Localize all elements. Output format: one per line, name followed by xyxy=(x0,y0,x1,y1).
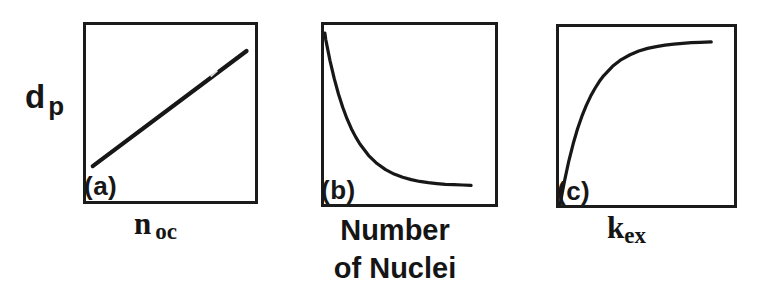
three-panel-qualitative-figure: dp (a) noc (b) Number of Nuclei (c) kex xyxy=(0,0,767,293)
panel-a-tag: (a) xyxy=(84,173,117,199)
panel-c-x-label-base: k xyxy=(607,210,624,245)
y-axis-label-base: d xyxy=(25,78,45,115)
panel-b-x-label-line2: of Nuclei xyxy=(330,249,460,287)
panel-a-plot-box: (a) xyxy=(83,22,258,204)
y-axis-label-dp: dp xyxy=(25,80,64,116)
panel-c-plot-box: (c) xyxy=(556,24,737,208)
panel-c-tag: (c) xyxy=(557,178,590,204)
panel-b-plot-box: (b) xyxy=(321,22,498,207)
y-axis-label-subscript: p xyxy=(48,91,64,121)
panel-c-x-axis-label: kex xyxy=(607,212,646,246)
panel-c-x-label-subscript: ex xyxy=(624,223,646,248)
panel-b-x-label-line1: Number xyxy=(330,211,460,249)
panel-b-x-axis-label: Number of Nuclei xyxy=(330,211,460,287)
panel-a-x-label-subscript: oc xyxy=(155,219,177,244)
panel-a-x-axis-label: noc xyxy=(134,208,177,242)
panel-a-x-label-base: n xyxy=(134,206,151,241)
panel-b-tag: (b) xyxy=(321,177,356,203)
